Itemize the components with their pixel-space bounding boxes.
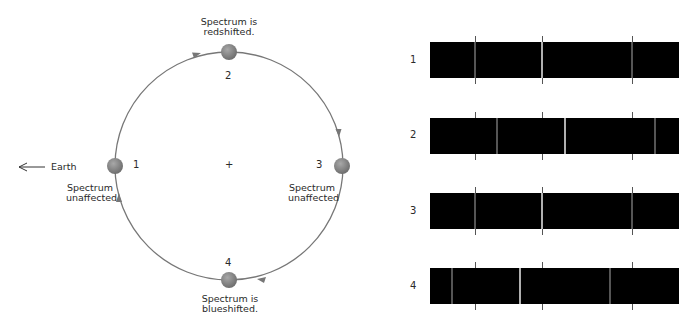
reference-tick: [542, 112, 543, 118]
center-marker: +: [225, 159, 233, 170]
spectrum-row-label-4: 4: [410, 280, 416, 291]
star-dot-3: [334, 158, 350, 174]
spectrum-row-label-2: 2: [410, 129, 416, 140]
star-dot-1: [107, 158, 123, 174]
reference-tick: [475, 154, 476, 160]
reference-tick: [475, 187, 476, 193]
reference-tick: [475, 262, 476, 268]
reference-tick: [632, 187, 633, 193]
position-number-1: 1: [133, 159, 139, 170]
reference-tick: [632, 304, 633, 310]
position-caption-2: Spectrum is redshifted.: [199, 17, 259, 37]
spectral-line: [631, 42, 633, 78]
spectral-line: [541, 42, 543, 78]
orbit-arrow-icon: [257, 277, 266, 283]
position-caption-1: Spectrum unaffected: [66, 183, 114, 203]
position-caption-4: Spectrum is blueshifted.: [199, 294, 261, 314]
reference-tick: [632, 112, 633, 118]
reference-tick: [542, 262, 543, 268]
reference-tick: [542, 229, 543, 235]
reference-tick: [542, 78, 543, 84]
spectral-line: [564, 118, 566, 154]
reference-tick: [475, 112, 476, 118]
spectral-line: [519, 268, 521, 304]
spectrum-row-label-1: 1: [410, 54, 416, 65]
position-number-4: 4: [225, 257, 231, 268]
position-number-3: 3: [316, 159, 322, 170]
left-arrow-icon: [19, 163, 45, 171]
spectral-line: [474, 193, 476, 229]
reference-tick: [475, 304, 476, 310]
orbit-arrow-icon: [336, 129, 342, 137]
position-number-2: 2: [225, 70, 231, 81]
spectrum-bar-3: [430, 193, 679, 229]
spectral-line: [654, 118, 656, 154]
spectral-line: [474, 42, 476, 78]
reference-tick: [475, 229, 476, 235]
spectrum-bar-1: [430, 42, 679, 78]
reference-tick: [542, 304, 543, 310]
reference-tick: [475, 78, 476, 84]
reference-tick: [542, 36, 543, 42]
reference-tick: [475, 36, 476, 42]
spectrum-bar-2: [430, 118, 679, 154]
reference-tick: [632, 36, 633, 42]
spectrum-bar-4: [430, 268, 679, 304]
reference-tick: [632, 229, 633, 235]
spectrum-row-label-3: 3: [410, 205, 416, 216]
star-dot-2: [221, 44, 237, 60]
reference-tick: [632, 78, 633, 84]
doppler-orbit-diagram: + Earth 1 Spectrum unaffected Spectrum i…: [0, 0, 694, 329]
spectral-line: [451, 268, 453, 304]
spectral-line: [496, 118, 498, 154]
reference-tick: [542, 154, 543, 160]
reference-tick: [542, 187, 543, 193]
position-caption-3: Spectrum unaffected: [288, 183, 336, 203]
spectral-line: [609, 268, 611, 304]
reference-tick: [632, 154, 633, 160]
spectral-line: [631, 193, 633, 229]
earth-label: Earth: [51, 162, 76, 172]
reference-tick: [632, 262, 633, 268]
star-dot-4: [221, 272, 237, 288]
spectral-line: [541, 193, 543, 229]
